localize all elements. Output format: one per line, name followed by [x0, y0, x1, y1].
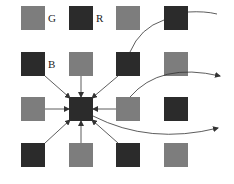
arrow-from-top-right	[92, 76, 118, 98]
curve-top-exit	[188, 12, 217, 14]
curve-top	[130, 20, 164, 52]
curve-bottom	[93, 116, 218, 134]
arrow-from-top-left	[45, 76, 70, 98]
arrow-from-bottom-left	[45, 120, 70, 143]
curve-middle	[130, 72, 220, 97]
arrows-layer	[0, 0, 234, 184]
arrow-from-bottom-right	[92, 120, 118, 143]
bayer-demosaic-diagram: GRB	[0, 0, 234, 184]
